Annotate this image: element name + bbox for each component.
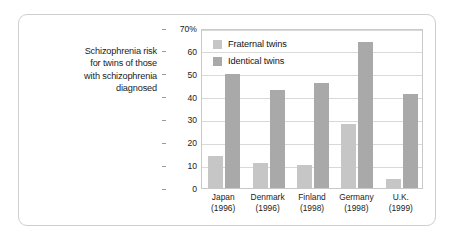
legend-label-identical: Identical twins	[228, 56, 284, 66]
y-tick-label: 20	[167, 138, 197, 148]
legend-item-identical: Identical twins	[213, 54, 287, 68]
legend-item-fraternal: Fraternal twins	[213, 37, 287, 51]
bar-identical-germany	[358, 42, 373, 188]
y-tick-label: 0	[167, 184, 197, 194]
category-year: (1996)	[201, 203, 245, 214]
category-year: (1996)	[245, 203, 289, 214]
y-tick-label: 50	[167, 70, 197, 80]
caption-line: Schizophrenia risk	[27, 45, 157, 57]
legend-swatch-identical-icon	[213, 57, 222, 66]
y-tick-mark	[162, 97, 166, 98]
x-axis: Japan(1996)Denmark(1996)Finland(1998)Ger…	[201, 192, 423, 218]
y-tick-mark	[162, 29, 166, 30]
bar-identical-finland	[314, 83, 329, 188]
x-axis-category-label: Finland(1998)	[290, 192, 334, 214]
bar-fraternal-u.k.	[386, 179, 401, 188]
y-tick-label: 60	[167, 47, 197, 57]
y-tick-mark	[162, 166, 166, 167]
category-name: Denmark	[245, 192, 289, 203]
y-tick-mark	[162, 51, 166, 52]
bar-identical-japan	[225, 74, 240, 188]
caption-line: for twins of those	[27, 57, 157, 69]
y-tick-mark	[162, 120, 166, 121]
x-axis-category-label: Japan(1996)	[201, 192, 245, 214]
y-tick-mark	[162, 189, 166, 190]
category-name: U.K.	[379, 192, 423, 203]
category-year: (1998)	[334, 203, 378, 214]
bar-fraternal-denmark	[253, 163, 268, 188]
category-year: (1998)	[290, 203, 334, 214]
y-tick-label: 10	[167, 161, 197, 171]
x-axis-category-label: U.K.(1999)	[379, 192, 423, 214]
x-axis-category-label: Denmark(1996)	[245, 192, 289, 214]
caption-line: with schizophrenia	[27, 70, 157, 82]
legend-label-fraternal: Fraternal twins	[228, 39, 287, 49]
figure-card: Schizophrenia risk for twins of those wi…	[18, 14, 436, 226]
bar-fraternal-germany	[341, 124, 356, 188]
bar-fraternal-finland	[297, 165, 312, 188]
figure-caption: Schizophrenia risk for twins of those wi…	[27, 45, 157, 95]
y-tick-mark	[162, 143, 166, 144]
category-year: (1999)	[379, 203, 423, 214]
y-tick-label: 40	[167, 93, 197, 103]
category-name: Germany	[334, 192, 378, 203]
category-name: Finland	[290, 192, 334, 203]
y-tick-label: 70%	[167, 24, 197, 34]
y-tick-label: 30	[167, 115, 197, 125]
plot-area: Fraternal twins Identical twins	[201, 29, 423, 189]
x-axis-category-label: Germany(1998)	[334, 192, 378, 214]
chart-legend: Fraternal twins Identical twins	[213, 37, 287, 71]
bar-fraternal-japan	[208, 156, 223, 188]
category-name: Japan	[201, 192, 245, 203]
caption-line: diagnosed	[27, 82, 157, 94]
legend-swatch-fraternal-icon	[213, 40, 222, 49]
y-axis: 010203040506070%	[167, 29, 197, 189]
y-tick-mark	[162, 74, 166, 75]
bar-identical-u.k.	[403, 94, 418, 188]
bar-identical-denmark	[270, 90, 285, 188]
bar-chart: 010203040506070% Fraternal twins Identic…	[167, 29, 429, 217]
